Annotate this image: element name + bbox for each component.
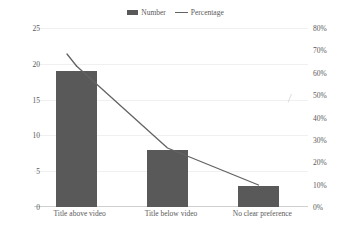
x-axis-label-title-above-video: Title above video <box>34 210 125 222</box>
x-axis-label-no-clear-preference: No clear preference <box>217 210 308 222</box>
y2-axis-tick-50: 50% <box>313 92 347 100</box>
percentage-line-leadin <box>67 54 77 66</box>
legend-entry-number[interactable]: Number <box>127 9 166 17</box>
plot-area <box>34 28 308 207</box>
y2-axis-tick-60: 60% <box>313 70 347 78</box>
y2-axis-tick-40: 40% <box>313 115 347 123</box>
percentage-line-layer <box>34 20 308 207</box>
y-axis-tick-20: 20 <box>14 61 40 69</box>
legend-entry-percentage[interactable]: Percentage <box>175 9 224 17</box>
y2-axis-tick-0: 0% <box>313 204 347 212</box>
y2-axis-tick-20: 20% <box>313 159 347 167</box>
y2-axis-tick-30: 30% <box>313 137 347 145</box>
legend-label-number: Number <box>141 9 166 17</box>
y-axis-tick-10: 10 <box>14 132 40 140</box>
y-axis-tick-15: 15 <box>14 97 40 105</box>
y-axis-tick-5: 5 <box>14 168 40 176</box>
percentage-line <box>77 66 259 185</box>
x-axis-labels: Title above video Title below video No c… <box>34 210 308 222</box>
chart-container: Number Percentage 25 20 15 10 <box>0 0 351 244</box>
line-swatch-icon <box>175 12 188 13</box>
x-axis-label-title-below-video: Title below video <box>125 210 216 222</box>
y-axis-tick-25: 25 <box>14 25 40 33</box>
bar-swatch-icon <box>127 10 138 15</box>
chart-legend: Number Percentage <box>0 9 351 17</box>
legend-label-percentage: Percentage <box>191 9 224 17</box>
y2-axis-tick-70: 70% <box>313 47 347 55</box>
y2-axis-tick-10: 10% <box>313 182 347 190</box>
y2-axis-tick-80: 80% <box>313 25 347 33</box>
